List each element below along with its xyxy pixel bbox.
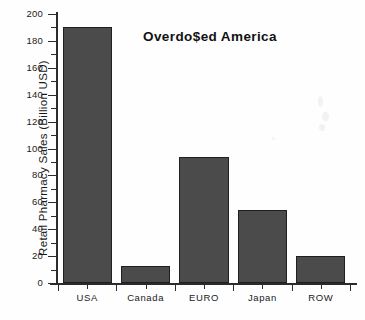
y-tick-minor	[51, 108, 57, 109]
x-tick-center	[146, 284, 147, 289]
y-tick-major	[48, 202, 57, 203]
y-tick-label: 120	[3, 116, 43, 127]
x-tick-boundary	[292, 284, 293, 291]
bar-row	[296, 256, 345, 283]
y-tick-major	[48, 256, 57, 257]
bar-canada	[121, 266, 170, 283]
y-tick-label: 160	[3, 62, 43, 73]
x-tick-boundary	[116, 284, 117, 291]
y-tick-major	[48, 229, 57, 230]
bar-euro	[179, 157, 228, 283]
bar-japan	[238, 210, 287, 283]
y-tick-label: 200	[3, 8, 43, 19]
scan-artifact	[272, 137, 275, 140]
y-tick-label: 140	[3, 89, 43, 100]
scan-artifact	[319, 124, 325, 131]
y-tick-minor	[51, 135, 57, 136]
y-tick-minor	[51, 243, 57, 244]
y-tick-minor	[51, 270, 57, 271]
y-tick-minor	[51, 81, 57, 82]
y-tick-major	[48, 122, 57, 123]
x-tick-boundary	[350, 284, 351, 291]
y-tick-label: 0	[3, 277, 43, 288]
scan-artifact	[322, 112, 329, 121]
y-tick-minor	[51, 162, 57, 163]
x-tick-center	[87, 284, 88, 289]
y-tick-label: 40	[3, 223, 43, 234]
x-tick-center	[204, 284, 205, 289]
y-tick-label: 20	[3, 250, 43, 261]
y-tick-major	[48, 283, 57, 284]
y-tick-label: 80	[3, 169, 43, 180]
x-tick-boundary	[175, 284, 176, 291]
y-tick-label: 60	[3, 196, 43, 207]
x-tick-center	[262, 284, 263, 289]
x-tick-label-row: ROW	[281, 292, 361, 303]
y-tick-major	[48, 68, 57, 69]
y-tick-minor	[51, 54, 57, 55]
x-tick-boundary	[233, 284, 234, 291]
x-tick-center	[321, 284, 322, 289]
bar-usa	[63, 27, 112, 283]
scan-artifact	[318, 96, 323, 107]
y-tick-label: 180	[3, 35, 43, 46]
y-tick-major	[48, 95, 57, 96]
x-tick-boundary	[58, 284, 59, 291]
y-tick-major	[48, 41, 57, 42]
y-tick-label: 100	[3, 143, 43, 154]
y-tick-minor	[51, 189, 57, 190]
chart-figure: Retail Pharmacy Sales (Billion USD) Over…	[0, 0, 365, 320]
y-tick-minor	[51, 27, 57, 28]
y-tick-major	[48, 14, 57, 15]
y-tick-major	[48, 149, 57, 150]
y-tick-major	[48, 175, 57, 176]
y-tick-minor	[51, 216, 57, 217]
